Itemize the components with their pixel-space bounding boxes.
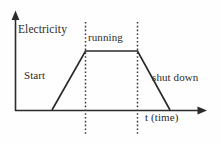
annotation-running: running xyxy=(88,32,123,43)
annotation-shut-down: shut down xyxy=(152,72,198,83)
x-axis-arrowhead-icon xyxy=(198,107,208,115)
electricity-time-chart: Electricity running Start shut down t (t… xyxy=(0,0,220,143)
x-axis-label: t (time) xyxy=(145,112,178,123)
y-axis-arrowhead-icon xyxy=(12,11,20,21)
y-axis-label: Electricity xyxy=(18,24,67,36)
annotation-start: Start xyxy=(24,70,45,81)
